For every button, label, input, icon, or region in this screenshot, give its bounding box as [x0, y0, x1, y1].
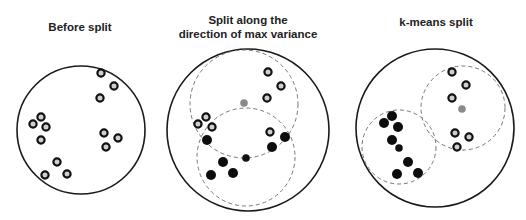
- data-point-filled-icon: [379, 118, 389, 128]
- data-point-filled-icon: [413, 168, 423, 178]
- data-point-ring-icon: [37, 113, 44, 120]
- data-point-filled-icon: [387, 135, 397, 145]
- max-variance-split-panel: [167, 49, 329, 211]
- data-point-ring-icon: [263, 94, 270, 101]
- data-point-ring-icon: [264, 68, 271, 75]
- data-point-ring-icon: [41, 171, 48, 178]
- before-split-panel: [17, 66, 145, 194]
- kmeans-split-panel: [356, 49, 514, 207]
- data-point-ring-icon: [110, 82, 117, 89]
- data-point-ring-icon: [462, 81, 469, 88]
- data-point-ring-icon: [29, 120, 36, 127]
- data-point-ring-icon: [97, 69, 104, 76]
- data-point-filled-icon: [403, 157, 413, 167]
- data-point-ring-icon: [266, 128, 273, 135]
- data-point-ring-icon: [96, 94, 103, 101]
- data-point-filled-icon: [267, 142, 277, 152]
- data-point-filled-icon: [392, 169, 402, 179]
- data-point-filled-icon: [393, 122, 403, 132]
- data-point-filled-icon: [206, 170, 216, 180]
- data-point-ring-icon: [42, 123, 49, 130]
- data-point-ring-icon: [100, 129, 107, 136]
- data-point-filled-icon: [228, 168, 238, 178]
- data-point-filled-icon: [387, 111, 397, 121]
- data-point-ring-icon: [448, 94, 455, 101]
- data-point-ring-icon: [277, 82, 284, 89]
- data-point-ring-icon: [465, 133, 472, 140]
- data-point-ring-icon: [451, 129, 458, 136]
- centroid-icon: [242, 154, 250, 162]
- data-point-ring-icon: [448, 68, 455, 75]
- data-point-ring-icon: [208, 123, 215, 130]
- data-point-ring-icon: [194, 120, 201, 127]
- cluster-boundary-circle: [17, 66, 145, 194]
- data-point-ring-icon: [114, 134, 121, 141]
- data-point-ring-icon: [453, 143, 460, 150]
- data-point-ring-icon: [202, 113, 209, 120]
- data-point-filled-icon: [218, 157, 228, 167]
- centroid-icon: [395, 144, 403, 152]
- split-diagram: [0, 0, 526, 220]
- data-point-filled-icon: [280, 132, 290, 142]
- data-point-ring-icon: [37, 136, 44, 143]
- data-point-filled-icon: [202, 135, 212, 145]
- data-point-ring-icon: [53, 158, 60, 165]
- data-point-ring-icon: [102, 143, 109, 150]
- data-point-ring-icon: [63, 170, 70, 177]
- cluster-boundary-circle: [356, 49, 514, 207]
- centroid-icon: [240, 99, 248, 107]
- cluster-boundary-circle: [167, 49, 329, 211]
- centroid-icon: [458, 105, 466, 113]
